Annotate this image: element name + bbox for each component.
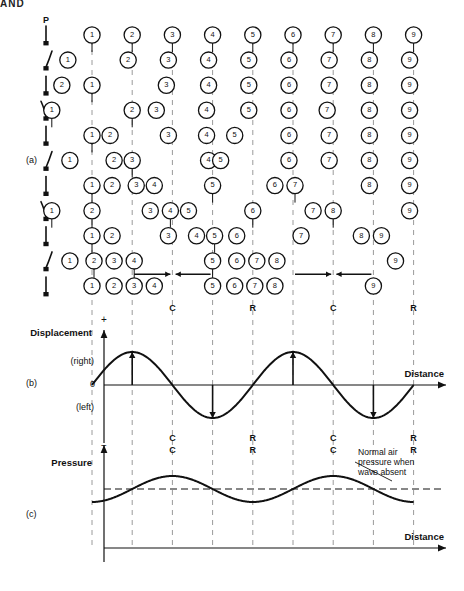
particle-label-r6-c2: 2 (112, 156, 116, 164)
particle-label-r2-c3: 3 (166, 56, 170, 64)
particle-label-r10-c8: 8 (275, 257, 279, 265)
prong-base-row-10 (43, 267, 48, 271)
prong-base-row-9 (43, 242, 48, 246)
panel-b-zone-r-2: R (250, 434, 257, 443)
particle-label-r2-c6: 6 (287, 56, 291, 64)
particle-label-r3-c2: 2 (60, 81, 64, 89)
panel-c-y-axis-label: Pressure (51, 458, 92, 468)
panel-b-left-note: (left) (76, 403, 94, 412)
particle-label-r7-c2: 2 (110, 181, 114, 189)
prong-base-row-6 (43, 167, 48, 171)
prong-base-row-7 (43, 192, 48, 196)
particle-label-r8-c6: 6 (251, 207, 255, 215)
particle-label-r2-c7: 7 (327, 56, 331, 64)
particle-label-r9-c7: 7 (299, 232, 303, 240)
particle-label-r1-c3: 3 (170, 31, 174, 39)
prong-curve-right-row-2 (46, 51, 52, 67)
particle-label-r10-c7: 7 (255, 257, 259, 265)
panel-c-label: (c) (26, 510, 37, 519)
particle-label-r8-c2: 2 (90, 207, 94, 215)
particle-label-r2-c2: 2 (126, 56, 130, 64)
particle-label-r1-c4: 4 (211, 31, 215, 39)
particle-label-r1-c9: 9 (412, 31, 416, 39)
particle-label-r4-c5: 5 (247, 106, 251, 114)
particle-label-r10-c1: 1 (68, 257, 72, 265)
particle-label-r8-c3: 3 (148, 207, 152, 215)
particle-label-r3-c3: 3 (164, 81, 168, 89)
particle-label-r11-c3: 3 (132, 282, 136, 290)
particle-label-r3-c4: 4 (206, 81, 210, 89)
particle-label-r10-c6: 6 (235, 257, 239, 265)
particle-label-r3-c5: 5 (247, 81, 251, 89)
particle-label-r5-c8: 8 (367, 131, 371, 139)
particle-label-r4-c7: 7 (325, 106, 329, 114)
particle-label-r5-c5: 5 (233, 131, 237, 139)
particle-label-r4-c1: 1 (50, 106, 54, 114)
particle-label-r6-c1: 1 (68, 156, 72, 164)
particle-label-r7-c8: 8 (367, 181, 371, 189)
particle-label-r6-c5: 5 (219, 156, 223, 164)
compression-arrow-left-c7-head (336, 272, 341, 278)
particle-label-r11-c6: 6 (233, 282, 237, 290)
particle-label-r6-c6: 6 (287, 156, 291, 164)
particle-label-r11-c4: 4 (152, 282, 156, 290)
particle-label-r3-c6: 6 (287, 81, 291, 89)
particle-label-r3-c1: 1 (90, 81, 94, 89)
particle-label-r9-c3: 3 (166, 232, 170, 240)
panel-c-x-axis-label: Distance (404, 532, 444, 542)
particle-label-r1-c6: 6 (291, 31, 295, 39)
particle-label-r8-c9: 9 (407, 207, 411, 215)
particle-label-r4-c9: 9 (407, 106, 411, 114)
particle-label-r5-c2: 2 (108, 131, 112, 139)
particle-label-r3-c7: 7 (327, 81, 331, 89)
particle-label-r10-c4: 4 (132, 257, 136, 265)
compression-arrow-right-c7-head (326, 272, 331, 278)
particle-label-r8-c5: 5 (186, 207, 190, 215)
panel-a-zone-c-3: C (330, 304, 337, 313)
prong-base-row-5 (43, 141, 48, 145)
particle-label-r11-c1: 1 (90, 282, 94, 290)
particle-label-r4-c2: 2 (130, 106, 134, 114)
particle-label-r7-c1: 1 (90, 181, 94, 189)
figure-root: AND P12345678912345678912345678912345678… (0, 0, 464, 591)
annotation-line-1: Normal air (358, 447, 458, 457)
particle-label-r5-c4: 4 (204, 131, 208, 139)
panel-b-x-axis-label: Distance (404, 369, 444, 379)
panel-c-zone-c-1: C (169, 446, 176, 455)
panel-a-zone-r-2: R (250, 304, 257, 313)
panel-a-label: (a) (26, 156, 37, 165)
particle-label-r5-c6: 6 (287, 131, 291, 139)
particle-label-r6-c8: 8 (367, 156, 371, 164)
panel-b-plus-sign: + (101, 315, 107, 325)
particle-label-r5-c9: 9 (407, 131, 411, 139)
panel-c-zone-r-2: R (250, 446, 257, 455)
source-label-P: P (43, 16, 49, 25)
particle-label-r8-c4: 4 (168, 207, 172, 215)
particle-label-r1-c7: 7 (331, 31, 335, 39)
particle-label-r4-c3: 3 (154, 106, 158, 114)
particle-label-r1-c8: 8 (371, 31, 375, 39)
particle-label-r3-c8: 8 (367, 81, 371, 89)
particle-label-r5-c3: 3 (166, 131, 170, 139)
particle-label-r9-c5: 5 (213, 232, 217, 240)
panel-b-y-axis-arrowhead (101, 330, 108, 338)
panel-b-minus-sign: − (101, 441, 107, 451)
particle-label-r1-c1: 1 (90, 31, 94, 39)
prong-base-row-11 (43, 292, 48, 296)
panel-b-zone-c-1: C (169, 434, 176, 443)
panel-b-label: (b) (26, 379, 37, 388)
particle-label-r2-c1: 1 (66, 56, 70, 64)
particle-label-r9-c1: 1 (90, 232, 94, 240)
particle-label-r11-c5: 5 (211, 282, 215, 290)
prong-base-row-2 (43, 66, 48, 70)
panel-b-zone-c-3: C (330, 434, 337, 443)
particle-label-r6-c4: 4 (206, 156, 210, 164)
particle-label-r6-c7: 7 (327, 156, 331, 164)
particle-label-r7-c9: 9 (407, 181, 411, 189)
particle-label-r8-c7: 7 (311, 207, 315, 215)
particle-label-r7-c7: 7 (293, 181, 297, 189)
particle-label-r1-c2: 2 (130, 31, 134, 39)
panel-b-x-axis-arrowhead (438, 382, 446, 389)
compression-arrow-right-c3-head (165, 272, 170, 278)
particle-label-r7-c5: 5 (211, 181, 215, 189)
